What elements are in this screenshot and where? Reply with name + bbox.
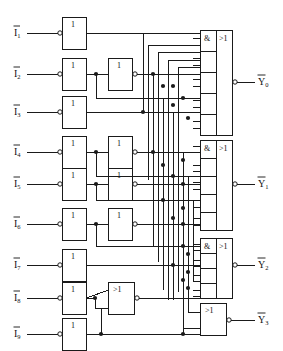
output-bubble-y2 bbox=[233, 263, 237, 267]
input-wires bbox=[27, 33, 58, 334]
input-label-5: I5 bbox=[14, 177, 21, 190]
input-label-8: I8 bbox=[14, 291, 21, 304]
svg-text:1: 1 bbox=[117, 139, 121, 148]
and-symbol-y0: & bbox=[204, 34, 211, 43]
input-label-2: I2 bbox=[14, 67, 21, 80]
output-bubble-y1 bbox=[233, 182, 237, 186]
svg-text:Y0: Y0 bbox=[258, 76, 268, 88]
output-label-y0: Y0 bbox=[258, 75, 269, 88]
input-label-3: I3 bbox=[14, 105, 21, 118]
svg-text:1: 1 bbox=[117, 61, 121, 70]
inverter-gate-5[interactable]: 1 bbox=[58, 169, 87, 201]
output-label-y3: Y3 bbox=[258, 313, 269, 326]
svg-text:Y1: Y1 bbox=[258, 178, 268, 190]
svg-text:I4: I4 bbox=[14, 146, 21, 158]
svg-text:I1: I1 bbox=[14, 27, 21, 39]
svg-text:1: 1 bbox=[71, 20, 75, 29]
and-or-block-y0[interactable]: & >1 bbox=[201, 31, 256, 136]
and-symbol-y2: & bbox=[204, 242, 211, 251]
logic-circuit-diagram: I1 I2 I3 I4 I5 I6 I7 I8 bbox=[0, 0, 283, 351]
output-label-y1: Y1 bbox=[258, 177, 269, 190]
inverter-gate-2b[interactable]: 1 bbox=[109, 59, 138, 91]
circuit-canvas: I1 I2 I3 I4 I5 I6 I7 I8 bbox=[0, 0, 283, 351]
svg-text:Y3: Y3 bbox=[258, 314, 268, 326]
svg-text:1: 1 bbox=[71, 139, 75, 148]
svg-text:1: 1 bbox=[71, 252, 75, 261]
svg-text:1: 1 bbox=[71, 211, 75, 220]
output-label-y2: Y2 bbox=[258, 258, 269, 271]
svg-text:1: 1 bbox=[71, 171, 75, 180]
inverter-gate-3[interactable]: 1 bbox=[58, 97, 87, 129]
output-bubble-y3 bbox=[227, 318, 231, 322]
inverter-gate-7[interactable]: 1 bbox=[58, 250, 87, 282]
svg-text:I2: I2 bbox=[14, 68, 21, 80]
svg-text:I3: I3 bbox=[14, 106, 21, 118]
svg-text:I7: I7 bbox=[14, 259, 21, 271]
and-symbol-y1: & bbox=[204, 144, 211, 153]
input-label-1: I1 bbox=[14, 26, 21, 39]
and-or-block-y1[interactable]: & >1 bbox=[201, 141, 256, 231]
svg-text:I8: I8 bbox=[14, 292, 21, 304]
input-label-7: I7 bbox=[14, 258, 22, 271]
and-or-block-y2[interactable]: & >1 bbox=[201, 239, 256, 299]
inverter-column-2: 1 1 1 1 >1 bbox=[109, 59, 140, 315]
or-symbol-y1: >1 bbox=[219, 144, 228, 153]
or-symbol-y0: >1 bbox=[219, 34, 228, 43]
input-label-9: I9 bbox=[14, 327, 21, 340]
inverter-gate-4b[interactable]: 1 bbox=[109, 137, 138, 169]
input-labels: I1 I2 I3 I4 I5 I6 I7 I8 bbox=[14, 26, 22, 340]
svg-text:1: 1 bbox=[71, 321, 75, 330]
inverter-gate-2[interactable]: 1 bbox=[58, 59, 87, 91]
inverter-gate-4[interactable]: 1 bbox=[58, 137, 87, 169]
svg-text:>1: >1 bbox=[113, 285, 122, 294]
inverter-gate-5b[interactable]: 1 bbox=[109, 169, 138, 201]
svg-text:Y2: Y2 bbox=[258, 259, 268, 271]
input-label-4: I4 bbox=[14, 145, 22, 158]
inverter-gate-8[interactable]: 1 bbox=[58, 283, 87, 315]
inverter-column-1: 1 1 1 1 1 1 1 bbox=[58, 18, 87, 351]
inverter-gate-9[interactable]: 1 bbox=[58, 319, 87, 351]
inverter-gate-1[interactable]: 1 bbox=[58, 18, 87, 50]
svg-text:I6: I6 bbox=[14, 218, 21, 230]
output-bubble-y0 bbox=[233, 80, 237, 84]
inverter-gate-6b[interactable]: 1 bbox=[109, 209, 138, 241]
svg-text:1: 1 bbox=[71, 285, 75, 294]
svg-text:1: 1 bbox=[71, 99, 75, 108]
svg-text:I9: I9 bbox=[14, 328, 21, 340]
svg-text:1: 1 bbox=[117, 211, 121, 220]
svg-text:1: 1 bbox=[71, 61, 75, 70]
and-input-pins bbox=[193, 38, 201, 296]
or-symbol-y2: >1 bbox=[219, 242, 228, 251]
input-label-6: I6 bbox=[14, 217, 22, 230]
output-labels: Y0 Y1 Y2 Y3 bbox=[258, 75, 269, 326]
or-gate-89[interactable]: >1 bbox=[109, 283, 140, 315]
or-symbol-y3: >1 bbox=[205, 306, 214, 315]
inverter-gate-6[interactable]: 1 bbox=[58, 209, 87, 241]
svg-text:I5: I5 bbox=[14, 178, 21, 190]
